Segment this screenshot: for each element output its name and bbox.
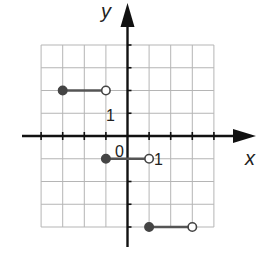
x-unit-label: 1 bbox=[154, 151, 163, 168]
origin-label: 0 bbox=[115, 143, 124, 160]
x-axis-arrow-icon bbox=[233, 129, 256, 143]
closed-dot bbox=[59, 86, 67, 94]
closed-dot bbox=[145, 223, 153, 231]
open-dot bbox=[102, 86, 110, 94]
closed-dot bbox=[102, 155, 110, 163]
y-axis-label: y bbox=[99, 0, 112, 22]
x-axis-label: x bbox=[244, 147, 256, 169]
axes bbox=[22, 3, 256, 247]
step-function-graph: x y 0 1 1 bbox=[0, 0, 274, 254]
y-axis-arrow-icon bbox=[121, 3, 135, 27]
y-unit-label: 1 bbox=[106, 107, 115, 124]
open-dot bbox=[188, 223, 196, 231]
open-dot bbox=[145, 155, 153, 163]
